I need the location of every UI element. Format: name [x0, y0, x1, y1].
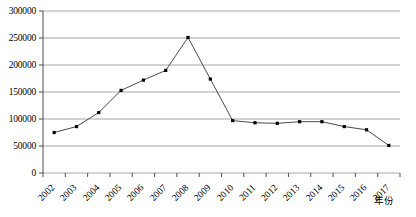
data-point-marker	[75, 125, 78, 128]
data-point-marker	[186, 36, 189, 39]
data-point-marker	[365, 128, 368, 131]
y-tick-label: 0	[0, 168, 36, 178]
data-point-marker	[119, 89, 122, 92]
data-point-marker	[298, 120, 301, 123]
y-tick-label: 200000	[0, 60, 36, 70]
line-chart: 050000100000150000200000250000300000 200…	[0, 0, 416, 217]
y-axis-ticks	[39, 11, 43, 173]
y-tick-label: 150000	[0, 87, 36, 97]
data-point-marker	[276, 122, 279, 125]
x-axis-ticks	[43, 173, 400, 177]
data-point-marker	[53, 131, 56, 134]
y-tick-label: 300000	[0, 6, 36, 16]
data-point-marker	[387, 144, 390, 147]
data-point-marker	[253, 121, 256, 124]
data-point-marker	[320, 120, 323, 123]
gridlines	[43, 11, 400, 173]
y-tick-label: 50000	[0, 141, 36, 151]
x-axis-title: 年份	[374, 193, 394, 207]
data-point-marker	[164, 69, 167, 72]
data-point-marker	[97, 111, 100, 114]
data-point-marker	[209, 77, 212, 80]
data-point-marker	[343, 125, 346, 128]
data-point-markers	[53, 36, 391, 147]
data-series-line	[54, 37, 389, 145]
y-tick-label: 250000	[0, 33, 36, 43]
data-point-marker	[142, 79, 145, 82]
data-point-marker	[231, 119, 234, 122]
y-tick-label: 100000	[0, 114, 36, 124]
